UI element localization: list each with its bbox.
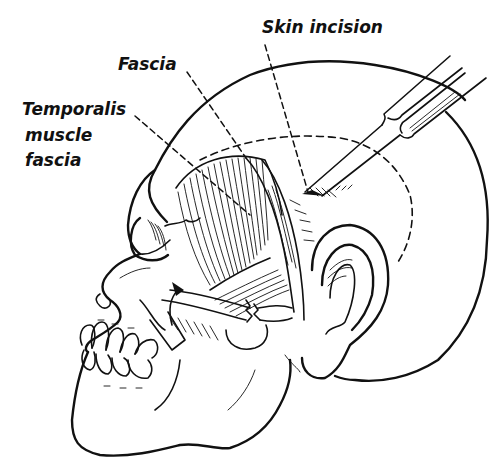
label-temporalis: Temporalis [22, 99, 126, 119]
medical-illustration: Skin incision Fascia Temporalis muscle f… [0, 0, 500, 471]
leader-skin-incision [265, 45, 308, 192]
temporalis-muscle [176, 156, 289, 316]
label-skin-incision: Skin incision [262, 17, 383, 37]
label-fascia: Fascia [118, 54, 177, 74]
skull [72, 170, 300, 456]
label-fascia-2: fascia [25, 150, 81, 170]
teeth [80, 320, 157, 388]
label-muscle: muscle [25, 125, 92, 145]
labels: Skin incision Fascia Temporalis muscle f… [22, 17, 383, 170]
illustration-canvas: Skin incision Fascia Temporalis muscle f… [0, 0, 500, 471]
ear [302, 225, 388, 378]
